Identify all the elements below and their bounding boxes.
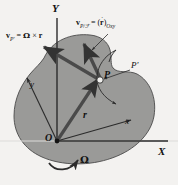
point-O-marker — [55, 139, 60, 144]
eq1-r: r — [39, 31, 43, 40]
eq2-equals: = — [91, 18, 96, 27]
point-P-marker — [97, 77, 103, 83]
eq2-dot-accent: · — [101, 15, 103, 22]
axis-label-x-body: x — [125, 117, 129, 126]
point-label-P-prime: P' — [131, 61, 138, 70]
vector-label-r: r — [83, 110, 87, 120]
eq2-subscript: P/ℱ — [80, 23, 89, 29]
point-label-P: P — [104, 70, 110, 80]
eq1-omega: Ω — [23, 30, 30, 40]
eq1-cross: × — [32, 31, 37, 40]
eq1-equals: = — [17, 31, 22, 40]
eq2-r-dot-group: r· — [100, 19, 104, 27]
dynamics-figure: Y X y x O P P' r Ω vP' = Ω × r vP/ℱ = (r… — [0, 0, 178, 185]
equation-vP-prime: vP' = Ω × r — [6, 31, 42, 42]
vector-label-omega: Ω — [80, 155, 89, 165]
equation-vP-relative: vP/ℱ = (r·)Oxy — [76, 19, 115, 29]
axis-label-X: X — [158, 146, 165, 157]
axis-label-y-body: y — [30, 80, 34, 89]
eq1-subscript: P' — [10, 36, 15, 42]
point-label-O: O — [45, 133, 52, 143]
eq2-subscript2: Oxy — [106, 23, 115, 29]
axis-label-Y: Y — [52, 3, 59, 14]
